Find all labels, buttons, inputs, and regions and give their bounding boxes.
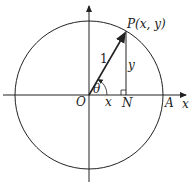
opposite-label: y bbox=[127, 58, 135, 72]
point-a-label: A bbox=[164, 96, 174, 110]
x-axis-label: x bbox=[182, 97, 189, 111]
point-p-label: P(x, y) bbox=[126, 17, 166, 31]
foot-n-label: N bbox=[121, 96, 133, 110]
diagram-canvas: P(x, y) O N A x θ 1 x y bbox=[0, 0, 193, 194]
adjacent-label: x bbox=[105, 95, 112, 109]
angle-label: θ bbox=[93, 82, 101, 96]
right-angle-marker bbox=[121, 90, 126, 95]
unit-circle-diagram: P(x, y) O N A x θ 1 x y bbox=[0, 0, 193, 194]
radius-label: 1 bbox=[100, 52, 108, 66]
origin-label: O bbox=[76, 95, 86, 109]
